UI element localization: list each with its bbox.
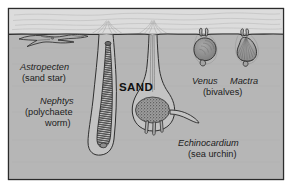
nephtys-scientific-label: Nephtys (40, 96, 74, 106)
nephtys-head (105, 41, 111, 45)
venus-scientific-label: Venus (192, 76, 218, 86)
nephtys-common-label-line2: worm) (44, 118, 71, 128)
sand-substrate-label: SAND (119, 81, 153, 93)
nephtys-tail (100, 143, 107, 148)
astropecten-common-label: (sand star) (22, 73, 66, 83)
echinocardium-scientific-label: Echinocardium (178, 138, 239, 148)
mactra-foot (243, 61, 248, 66)
astropecten-scientific-label: Astropecten (19, 62, 69, 72)
figure-root: Astropecten (sand star) Nephtys (polycha… (0, 0, 292, 188)
bivalves-common-label: (bivalves) (203, 87, 242, 97)
venus-shell (194, 38, 216, 61)
astropecten-madreporite (51, 37, 53, 39)
echinocardium-test (136, 97, 170, 123)
panel-contents: Astropecten (sand star) Nephtys (polycha… (9, 9, 283, 179)
benthic-infauna-diagram: Astropecten (sand star) Nephtys (polycha… (0, 0, 292, 188)
venus-foot (200, 60, 206, 66)
echinocardium-common-label: (sea urchin) (188, 149, 237, 159)
nephtys-common-label-line1: (polychaete (25, 107, 73, 117)
mactra-scientific-label: Mactra (230, 76, 258, 86)
